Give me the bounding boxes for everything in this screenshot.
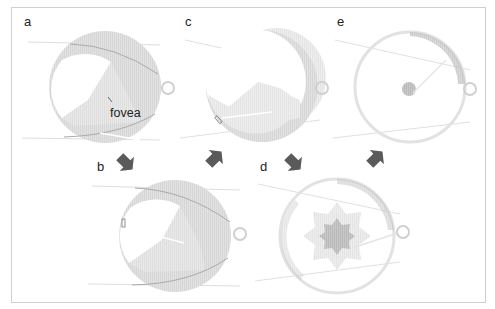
panel-a-retina	[22, 31, 174, 143]
fovea-annotation: fovea	[110, 107, 141, 120]
panel-d-retina	[255, 179, 409, 293]
panel-label-b: b	[97, 160, 104, 173]
arrow-b-to-c	[202, 144, 229, 171]
retina-sequence-diagram	[0, 0, 495, 309]
panel-e-retina	[333, 32, 476, 142]
arrow-d-to-e	[363, 144, 390, 171]
arrow-c-to-d	[281, 150, 308, 177]
panel-c-retina	[180, 28, 328, 142]
panel-label-d: d	[260, 160, 267, 173]
panel-label-c: c	[185, 15, 192, 28]
arrow-a-to-b	[113, 150, 140, 177]
panel-label-e: e	[337, 15, 344, 28]
panel-b-retina	[88, 180, 246, 292]
panel-label-a: a	[24, 15, 31, 28]
